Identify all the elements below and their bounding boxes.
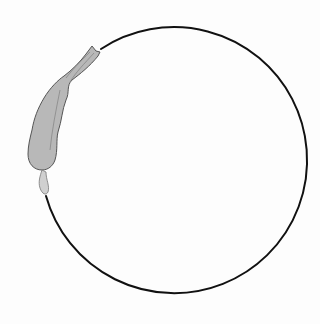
- illustration-svg: [0, 0, 320, 324]
- gray-figure: [28, 46, 100, 194]
- figure-body: [28, 46, 100, 170]
- figure-tail: [39, 170, 48, 194]
- illustration-canvas: [0, 0, 320, 324]
